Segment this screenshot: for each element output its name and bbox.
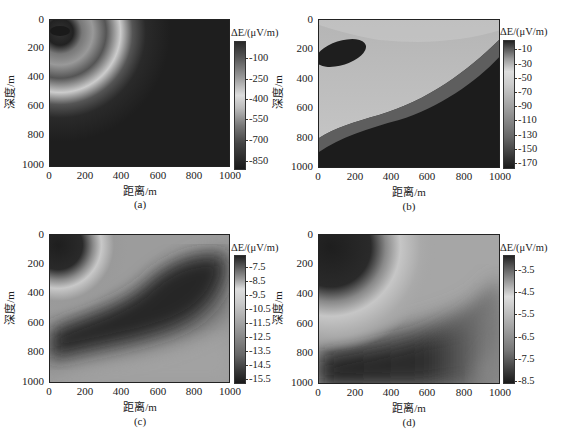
colorbar-tick: -7.5 [245,262,266,272]
y-tick: 800 [14,129,44,140]
colorbar-tick: -130 [514,130,537,140]
colorbar-tick: -3.5 [514,265,535,275]
y-tick: 800 [283,132,313,143]
colorbar-tick: -14.5 [245,360,271,370]
colorbar-title: ΔE/(μV/m) [500,242,547,253]
colorbar-tick: -10.5 [245,304,271,314]
colorbar-tick: -12.5 [245,332,271,342]
y-tick: 400 [283,288,313,299]
colorbar-tick: -7.5 [514,354,535,364]
y-tick: 200 [14,42,44,53]
colorbar-tick: -9.5 [245,290,266,300]
y-tick: 600 [14,100,44,111]
x-tick: 1000 [215,386,245,397]
x-tick: 400 [106,386,136,397]
x-tick: 600 [143,386,173,397]
y-axis-label: 深度/m [269,291,285,325]
colorbar-tick: -170 [514,158,537,168]
y-tick: 0 [14,229,44,240]
y-axis-label: 深度/m [269,75,285,109]
y-tick: 600 [14,317,44,328]
colorbar-title: ΔE/(μV/m) [231,242,278,253]
heatmap-b [318,19,500,168]
x-axis-label: 距离/m [369,399,449,415]
x-axis-label: 距离/m [369,183,449,199]
x-tick: 0 [303,387,333,398]
x-tick: 0 [303,171,333,182]
x-tick: 200 [70,386,100,397]
colorbar-tick: -10 [514,44,532,54]
x-tick: 800 [449,171,479,182]
y-tick: 200 [14,258,44,269]
y-tick: 200 [283,43,313,54]
y-tick: 600 [283,102,313,113]
y-tick: 600 [283,318,313,329]
colorbar-tick: -550 [245,114,268,124]
colorbar-tick: -100 [245,53,268,63]
colorbar-tick: -90 [514,101,532,111]
heatmap-c [49,234,230,383]
colorbar-tick: -4.5 [514,287,535,297]
y-tick: 400 [14,71,44,82]
x-tick: 0 [34,170,64,181]
x-tick: 1000 [485,171,515,182]
colorbar-tick: -30 [514,59,532,69]
x-tick: 800 [449,387,479,398]
x-tick: 200 [340,387,370,398]
colorbar-tick: -250 [245,74,268,84]
x-axis-label: 距离/m [100,182,180,198]
x-tick: 600 [412,387,442,398]
colorbar-tick: -110 [514,115,537,125]
y-tick: 0 [283,14,313,25]
y-tick: 0 [283,229,313,240]
colorbar-tick: -5.5 [514,309,535,319]
colorbar-tick: -400 [245,94,268,104]
y-tick: 800 [283,347,313,358]
x-tick: 1000 [485,387,515,398]
heatmap-d [318,234,500,384]
x-tick: 400 [106,170,136,181]
y-axis-label: 深度/m [1,75,17,109]
y-tick: 400 [283,73,313,84]
colorbar-tick: -700 [245,135,268,145]
x-tick: 200 [70,170,100,181]
y-tick: 800 [14,346,44,357]
colorbar-tick: -150 [514,144,537,154]
panel-caption: (a) [125,198,155,210]
colorbar-tick: -50 [514,73,532,83]
colorbar-title: ΔE/(μV/m) [500,26,547,37]
y-tick: 400 [14,287,44,298]
y-axis-label: 深度/m [1,291,17,325]
colorbar-tick: -6.5 [514,332,535,342]
colorbar-tick: -850 [245,156,268,166]
colorbar-tick: -70 [514,87,532,97]
x-tick: 400 [376,171,406,182]
x-tick: 800 [179,386,209,397]
x-axis-label: 距离/m [100,398,180,414]
panel-caption: (d) [394,416,424,428]
x-tick: 400 [376,387,406,398]
x-tick: 600 [143,170,173,181]
x-tick: 0 [34,386,64,397]
colorbar-tick: -11.5 [245,318,270,328]
y-tick: 200 [283,258,313,269]
colorbar-tick: -8.5 [514,376,535,386]
y-tick: 1000 [14,159,44,170]
x-tick: 1000 [215,170,245,181]
x-tick: 800 [179,170,209,181]
panel-caption: (b) [394,200,424,212]
x-tick: 600 [412,171,442,182]
heatmap-a [49,19,230,167]
x-tick: 200 [340,171,370,182]
colorbar-tick: -15.5 [245,374,271,384]
y-tick: 0 [14,14,44,25]
colorbar-tick: -8.5 [245,276,266,286]
colorbar-tick: -13.5 [245,346,271,356]
colorbar-title: ΔE/(μV/m) [231,27,278,38]
panel-caption: (c) [125,415,155,427]
